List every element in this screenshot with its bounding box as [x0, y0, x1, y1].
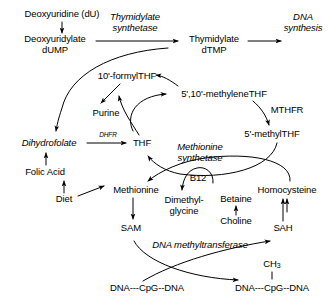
node-dmg-line2: glycine	[170, 204, 199, 215]
edge-thf-to-methylenethf	[130, 94, 166, 131]
edge-methylenethf-to-methylthf	[253, 101, 269, 125]
node-dtmp-line2: dTMP	[202, 43, 227, 54]
node-sam: SAM	[121, 223, 141, 234]
node-methionine: Methionine	[113, 185, 158, 196]
node-choline: Choline	[220, 216, 252, 227]
node-methylthf: 5'-methylTHF	[244, 129, 300, 140]
node-dihydrofolate: Dihydrofolate	[22, 138, 77, 149]
edge-diet-to-methionine	[78, 186, 104, 196]
node-dna-synth-line2: synthesis	[284, 21, 323, 32]
edge-thf-to-formylthf	[119, 96, 139, 135]
enzyme-ts-line1: Thymidylate	[110, 11, 160, 22]
enzyme-methionine-synthetase: Methionine synthetase	[177, 142, 222, 163]
node-thymidylate-synthetase: Thymidylate synthetase	[110, 12, 160, 33]
node-diet: Diet	[56, 194, 73, 205]
node-dump-line1: Deoxyuridylate	[24, 33, 85, 44]
pathway-diagram: Deoxyuridine (dU) Deoxyuridylate dUMP Th…	[0, 0, 335, 300]
node-formylthf: 10'-formylTHF	[98, 71, 157, 82]
ch3-label: CH	[263, 258, 277, 269]
enzyme-dna-methyltransferase: DNA methyltransferase	[152, 240, 248, 251]
node-betaine: Betaine	[220, 194, 252, 205]
node-dna-synth-line1: DNA	[293, 11, 313, 22]
ch3-subscript: 3	[277, 262, 281, 269]
node-thf: THF	[133, 138, 151, 149]
edge-methylenethf-to-formylthf	[156, 75, 178, 86]
node-deoxyuridylate-dump: Deoxyuridylate dUMP	[24, 34, 85, 55]
node-dna-cpg-unmethylated: DNA---CpG--DNA	[110, 283, 184, 294]
node-dmg-line1: Dimethyl-	[164, 194, 203, 205]
node-dump-line2: dUMP	[42, 43, 68, 54]
node-dna-cpg-methylated: DNA---CpG--DNA	[235, 283, 309, 294]
node-mthfr: MTHFR	[271, 105, 304, 116]
edge-formylthf-to-purine	[101, 84, 120, 103]
enzyme-ms-line1: Methionine	[177, 141, 222, 152]
edge-dump-to-dihydrofolate	[56, 48, 168, 131]
node-ch3-group: CH3	[263, 259, 280, 272]
node-homocysteine: Homocysteine	[258, 185, 317, 196]
enzyme-dhfr: DHFR	[99, 130, 117, 141]
node-sah: SAH	[273, 223, 292, 234]
node-folic-acid: Folic Acid	[25, 167, 65, 178]
node-dna-synthesis: DNA synthesis	[284, 12, 323, 33]
node-dtmp-line1: Thymidylate	[189, 33, 239, 44]
node-deoxyuridine: Deoxyuridine (dU)	[25, 9, 100, 20]
enzyme-ts-line2: synthetase	[113, 21, 158, 32]
node-b12: B12	[190, 173, 207, 184]
node-thymidylate-dtmp: Thymidylate dTMP	[189, 34, 239, 55]
node-dimethylglycine: Dimethyl- glycine	[164, 195, 203, 216]
enzyme-ms-line2: synthetase	[178, 151, 223, 162]
node-methylenethf: 5',10'-methyleneTHF	[181, 89, 267, 100]
node-purine: Purine	[93, 108, 120, 119]
